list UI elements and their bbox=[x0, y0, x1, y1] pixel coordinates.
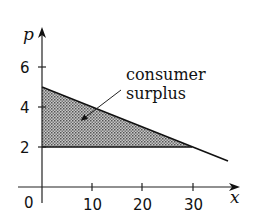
x-tick-label-30: 30 bbox=[184, 196, 203, 214]
y-axis-label: p bbox=[23, 24, 34, 44]
x-axis-label: x bbox=[230, 187, 240, 207]
y-tick-label-4: 4 bbox=[20, 99, 30, 117]
x-tick-label-10: 10 bbox=[83, 196, 102, 214]
annotation-surplus: surplus bbox=[126, 84, 186, 103]
consumer-surplus-chart: 6 4 2 0 10 20 30 p x consumer surplus bbox=[0, 0, 258, 221]
origin-label: 0 bbox=[24, 194, 34, 212]
y-tick-label-2: 2 bbox=[20, 139, 30, 157]
annotation-consumer: consumer bbox=[126, 65, 206, 84]
x-tick-label-20: 20 bbox=[133, 196, 152, 214]
y-tick-label-6: 6 bbox=[20, 59, 30, 77]
